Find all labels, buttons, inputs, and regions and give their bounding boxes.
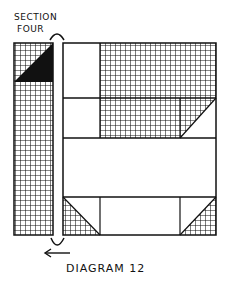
section-four-strip [14,43,53,235]
section-label-line2: FOUR [17,24,44,34]
main-block [63,43,216,235]
diagram-caption: DIAGRAM 12 [66,262,145,275]
section-label-line1: SECTION [14,12,57,22]
arrow-left-icon [45,249,70,257]
connector-arc-bottom [51,238,64,245]
connector-arc-top [50,34,64,40]
diagram-canvas [0,0,229,292]
